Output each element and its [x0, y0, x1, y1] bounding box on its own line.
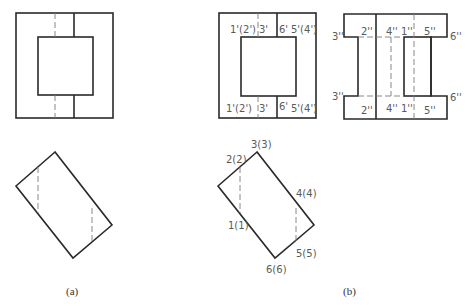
- label-5pp-bottom: 5'': [424, 105, 436, 116]
- label-6pp-top: 6'': [450, 31, 462, 42]
- label-3pp-top: 3'': [332, 31, 344, 42]
- label-6-6: 6(6): [266, 264, 287, 275]
- drawing-canvas: (a) 1'(2') 3' 6' 5'(4') 1'(2') 3' 6' 5'(…: [0, 0, 471, 306]
- panel-b-side-view: 3'' 2'' 4'' 1'' 5'' 6'' 3'' 2'' 4'' 1'' …: [332, 14, 462, 119]
- label-3p-top: 3': [259, 24, 268, 35]
- rotated-rectangle: [218, 152, 314, 258]
- label-6pp-bottom: 6'': [450, 92, 462, 103]
- label-4pp-bottom: 4'': [386, 103, 398, 114]
- label-5pp-top: 5'': [424, 26, 436, 37]
- label-2pp-top: 2'': [361, 26, 373, 37]
- label-1p2p-top: 1'(2'): [230, 24, 256, 35]
- label-5p4p-bottom: 5'(4'): [291, 103, 317, 114]
- caption-a: (a): [66, 285, 79, 298]
- label-2pp-bottom: 2'': [361, 105, 373, 116]
- label-3p-bottom: 3': [259, 103, 268, 114]
- inner-square: [38, 37, 93, 95]
- panel-b-front-view: 1'(2') 3' 6' 5'(4') 1'(2') 3' 6' 5'(4'): [219, 13, 317, 118]
- label-3-3: 3(3): [251, 139, 272, 150]
- label-5-5: 5(5): [296, 248, 317, 259]
- inner-slot: [404, 37, 431, 96]
- label-1pp-bottom: 1'': [401, 103, 413, 114]
- label-4-4: 4(4): [296, 188, 317, 199]
- label-3pp-bottom: 3'': [332, 91, 344, 102]
- panel-a-front-view: [16, 13, 113, 118]
- label-6p-top: 6': [279, 24, 288, 35]
- label-6p-bottom: 6': [279, 101, 288, 112]
- label-1-1: 1(1): [228, 220, 249, 231]
- caption-b: (b): [343, 285, 356, 298]
- label-1pp-top: 1'': [401, 26, 413, 37]
- label-2-2: 2(2): [226, 154, 247, 165]
- outer-frame: [16, 13, 113, 118]
- inner-square: [241, 37, 296, 96]
- label-5p4p-top: 5'(4'): [291, 24, 317, 35]
- panel-b-top-view: 3(3) 2(2) 4(4) 1(1) 5(5) 6(6): [218, 139, 317, 275]
- label-1p2p-bottom: 1'(2'): [226, 103, 252, 114]
- panel-a-top-view: [16, 152, 112, 258]
- rotated-rectangle: [16, 152, 112, 258]
- label-4pp-top: 4'': [386, 26, 398, 37]
